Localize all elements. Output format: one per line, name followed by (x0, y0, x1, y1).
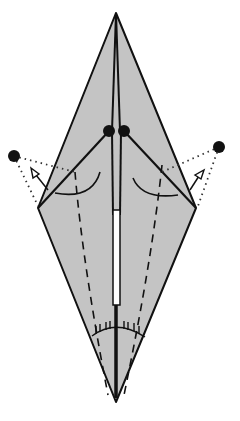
right-center-dot (118, 125, 130, 137)
right-outer-dot (213, 141, 225, 153)
center-slit (113, 210, 120, 305)
right-swing-arrow-icon (190, 170, 204, 190)
left-swing-arrow-icon (31, 168, 48, 190)
left-outer-dot (8, 150, 20, 162)
left-center-dot (103, 125, 115, 137)
origami-diagram (0, 0, 240, 421)
